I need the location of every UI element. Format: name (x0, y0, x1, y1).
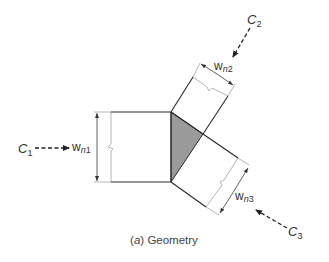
break-line-2 (193, 77, 228, 96)
force-c2-label: C2 (247, 12, 261, 29)
force-c1: C1 (18, 141, 69, 158)
dimension-wn3 (206, 158, 249, 215)
break-line-1 (108, 112, 113, 182)
force-c3: C3 (256, 210, 302, 241)
strut-and-tie-node-geometry-diagram: C1 C2 C3 wn1 wn2 wn3 (a) Geometry (0, 0, 329, 262)
strut-1 (108, 112, 171, 182)
force-c1-label: C1 (18, 141, 32, 158)
width-label-wn2: wn2 (213, 59, 233, 74)
force-c2: C2 (233, 12, 261, 57)
width-label-wn3: wn3 (234, 189, 254, 204)
force-c3-label: C3 (288, 224, 302, 241)
width-label-wn1: wn1 (71, 140, 91, 155)
break-line-3 (206, 158, 238, 207)
figure-caption: (a) Geometry (130, 234, 198, 246)
